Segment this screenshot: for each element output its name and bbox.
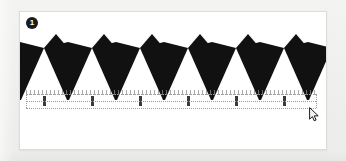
workspace-background: 1: [0, 0, 346, 161]
guide-line-middle[interactable]: [26, 101, 316, 102]
zigzag-spike-pattern[interactable]: [20, 12, 326, 112]
artwork-stage[interactable]: [20, 12, 326, 149]
guide-line-right[interactable]: [316, 94, 317, 108]
artboard-panel[interactable]: 1: [19, 11, 327, 150]
guide-line-top[interactable]: [26, 94, 316, 95]
guide-line-left[interactable]: [26, 94, 27, 108]
guide-line-bottom[interactable]: [26, 108, 316, 109]
